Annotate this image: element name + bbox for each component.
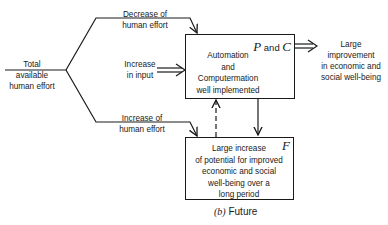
box-potential-f: Large increase of potential for improved… bbox=[185, 137, 294, 200]
middle-input-label-text: Increase in input bbox=[119, 58, 162, 80]
tag-and: and bbox=[261, 42, 282, 53]
lower-branch-label: Increase of human effort bbox=[112, 112, 172, 134]
figure-caption: (b) Future bbox=[214, 206, 257, 217]
caption-letter: (b) bbox=[214, 206, 226, 217]
source-label: Total available human effort bbox=[6, 58, 58, 91]
source-label-text: Total available human effort bbox=[6, 58, 58, 91]
box-automation-text: Automation and Computermation well imple… bbox=[192, 49, 264, 95]
tag-p: P bbox=[253, 39, 261, 54]
middle-input-label: Increase in input bbox=[119, 58, 162, 80]
box-potential-text: Large increase of potential for improved… bbox=[193, 142, 284, 200]
caption-text: Future bbox=[226, 206, 258, 217]
upper-branch-label: Decrease of human effort bbox=[115, 8, 175, 30]
lower-branch-label-text: Increase of human effort bbox=[112, 112, 172, 134]
upper-branch-label-text: Decrease of human effort bbox=[115, 8, 175, 30]
box-automation-pc: Automation and Computermation well imple… bbox=[185, 34, 295, 99]
tag-c: C bbox=[282, 39, 291, 54]
box-f-tag: F bbox=[282, 138, 290, 154]
output-label-text: Large improvement in economic and social… bbox=[321, 38, 381, 82]
output-label: Large improvement in economic and social… bbox=[321, 38, 381, 82]
box-pc-tag: P and C bbox=[253, 39, 291, 55]
